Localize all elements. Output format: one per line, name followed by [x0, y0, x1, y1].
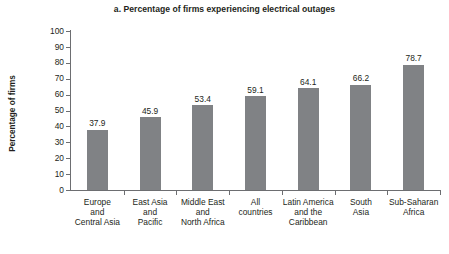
x-axis-tick: [176, 191, 177, 195]
x-axis-category-label: Sub-SaharanAfrica: [381, 197, 446, 217]
bar-chart-figure: a. Percentage of firms experiencing elec…: [0, 0, 449, 254]
category-label-line: Sub-Saharan: [381, 197, 446, 207]
bar: [245, 96, 266, 190]
y-axis-tick: [66, 47, 70, 48]
y-axis-tick-label: 50: [34, 106, 64, 114]
y-axis-title-text: Percentage of firms: [8, 75, 17, 151]
bar-value-label: 64.1: [282, 77, 335, 87]
y-axis-tick: [66, 142, 70, 143]
bar: [87, 130, 108, 190]
y-axis-tick-label: 40: [34, 122, 64, 130]
x-axis-line: [70, 190, 441, 191]
x-axis-tick: [229, 191, 230, 195]
y-axis-tick: [66, 158, 70, 159]
x-axis-tick: [387, 191, 388, 195]
y-axis-tick: [66, 31, 70, 32]
bar: [350, 85, 371, 190]
y-axis-tick-label: 0: [34, 186, 64, 194]
bar: [140, 117, 161, 190]
y-axis-tick-label: 60: [34, 90, 64, 98]
x-axis-tick: [335, 191, 336, 195]
y-axis-tick-label: 80: [34, 58, 64, 66]
y-axis-tick: [66, 63, 70, 64]
bar-value-label: 53.4: [176, 94, 229, 104]
y-axis-tick: [66, 95, 70, 96]
x-axis-tick: [124, 191, 125, 195]
y-axis-tick-label: 30: [34, 138, 64, 146]
bar-value-label: 45.9: [124, 106, 177, 116]
y-axis-tick: [66, 111, 70, 112]
bar-value-label: 66.2: [335, 73, 388, 83]
x-axis-tick: [282, 191, 283, 195]
y-axis-tick: [66, 79, 70, 80]
y-axis-tick-label: 100: [34, 27, 64, 35]
y-axis-tick-label: 20: [34, 154, 64, 162]
category-label-line: North Africa: [170, 217, 235, 227]
y-axis-tick: [66, 126, 70, 127]
chart-title: a. Percentage of firms experiencing elec…: [0, 4, 449, 14]
y-axis-tick-label: 70: [34, 74, 64, 82]
y-axis-tick: [66, 174, 70, 175]
bar: [403, 65, 424, 190]
y-axis-title: Percentage of firms: [5, 38, 19, 188]
y-axis-tick-label: 10: [34, 170, 64, 178]
y-axis-tick-label: 90: [34, 43, 64, 51]
bar-value-label: 37.9: [71, 118, 124, 128]
bar-value-label: 59.1: [229, 85, 282, 95]
bar: [192, 105, 213, 190]
y-axis-tick: [66, 190, 70, 191]
category-label-line: Caribbean: [276, 217, 341, 227]
bar: [298, 88, 319, 190]
bar-value-label: 78.7: [387, 53, 440, 63]
category-label-line: Africa: [381, 207, 446, 217]
x-axis-tick: [440, 191, 441, 195]
